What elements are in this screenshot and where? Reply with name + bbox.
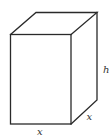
height-label: h xyxy=(103,64,109,75)
front-face xyxy=(11,35,72,125)
prism-diagram: h x x xyxy=(0,0,112,138)
depth-label: x xyxy=(87,111,93,122)
top-face xyxy=(11,13,98,35)
right-face xyxy=(71,13,97,125)
width-label: x xyxy=(37,126,43,137)
